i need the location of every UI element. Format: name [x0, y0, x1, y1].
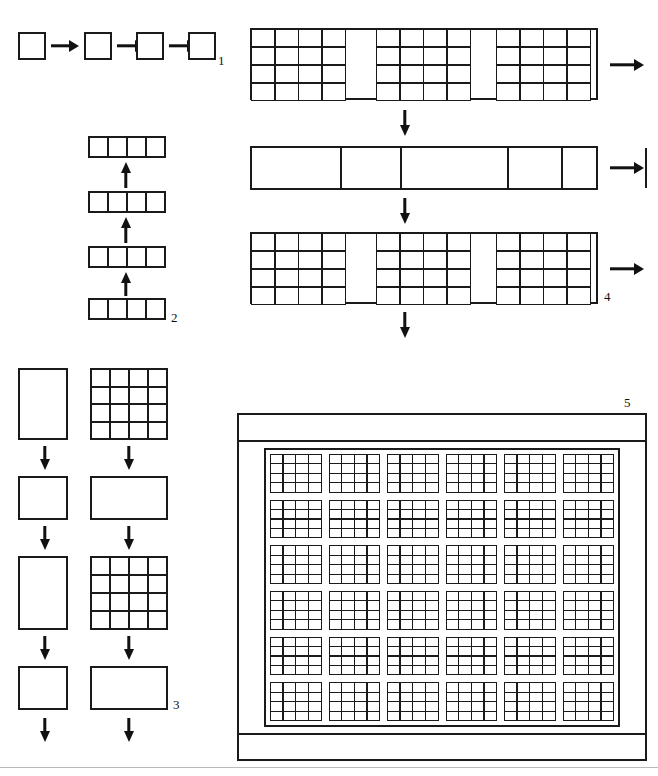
- square-node: [84, 32, 112, 60]
- nested-grid-field: [270, 454, 614, 721]
- panel-5-inner-frame: [264, 448, 620, 727]
- footer-rule: [0, 767, 658, 768]
- arrow-down-icon: [395, 110, 415, 136]
- frame-top-band: [239, 415, 645, 442]
- panel-label-3: 3: [173, 698, 180, 711]
- bar-segment: [252, 148, 342, 188]
- grid-block-4x4: [376, 233, 471, 305]
- grid-block-4x4: [496, 233, 591, 305]
- bar-segment: [402, 148, 509, 188]
- panel-3: 3: [18, 368, 208, 768]
- bar-segment: [509, 148, 563, 188]
- grid-block-4x4: [329, 682, 381, 721]
- grid-block-4x4: [563, 637, 615, 676]
- arrow-up-icon: [116, 272, 136, 296]
- square-node: [136, 32, 164, 60]
- grid-block-4x4: [270, 545, 322, 584]
- grid-block-4x4: [504, 454, 556, 493]
- grid-block-4x4: [329, 591, 381, 630]
- grid-block-4x4: [387, 454, 439, 493]
- banded-grid-bar: [250, 232, 598, 304]
- arrow-down-icon: [35, 446, 55, 470]
- square-node: [18, 666, 68, 710]
- grid-block-4x4: [563, 454, 615, 493]
- grid-block-4x4: [504, 637, 556, 676]
- arrow-right-icon: [51, 39, 79, 53]
- tall-rectangle-node: [18, 556, 68, 630]
- grid-block-4x4: [387, 545, 439, 584]
- arrow-up-icon: [116, 162, 136, 188]
- strip-of-4-cells: [88, 136, 166, 158]
- panel-1: 1: [18, 26, 208, 72]
- panel-4: 4: [250, 28, 650, 338]
- grid-block-4x4: [329, 454, 381, 493]
- panel-2: 2: [88, 136, 208, 316]
- arrow-down-icon: [119, 718, 139, 742]
- frame-bottom-band: [239, 733, 645, 759]
- grid-4x4-node: [90, 368, 168, 440]
- grid-block-4x4: [270, 591, 322, 630]
- square-node: [18, 32, 46, 60]
- grid-block-4x4: [446, 682, 498, 721]
- strip-of-4-cells: [88, 191, 166, 213]
- grid-block-4x4: [504, 682, 556, 721]
- arrow-down-icon: [119, 446, 139, 470]
- panel-label-4: 4: [604, 290, 611, 303]
- arrow-down-icon: [395, 312, 415, 338]
- grid-block-4x4: [504, 500, 556, 539]
- panel-5: [237, 413, 647, 761]
- figure-canvas: 1 2: [0, 0, 658, 776]
- grid-block-4x4: [563, 500, 615, 539]
- wide-rectangle-node: [90, 666, 168, 710]
- grid-block-4x4: [563, 682, 615, 721]
- grid-block-4x4: [270, 682, 322, 721]
- grid-block-4x4: [329, 637, 381, 676]
- grid-block-4x4: [270, 500, 322, 539]
- grid-block-4x4: [563, 545, 615, 584]
- grid-block-4x4: [387, 637, 439, 676]
- bar-segment: [342, 148, 402, 188]
- grid-block-4x4: [504, 545, 556, 584]
- grid-block-4x4: [446, 500, 498, 539]
- grid-block-4x4: [376, 29, 471, 101]
- grid-block-4x4: [387, 591, 439, 630]
- panel-label-5: 5: [624, 396, 631, 409]
- wide-rectangle-node: [90, 476, 168, 520]
- grid-block-4x4: [504, 591, 556, 630]
- strip-of-4-cells: [88, 298, 166, 320]
- panel-5-frame: [237, 413, 647, 761]
- square-node: [18, 476, 68, 520]
- plain-segment-bar: [250, 146, 598, 190]
- grid-block-4x4: [329, 500, 381, 539]
- arrow-down-icon: [35, 718, 55, 742]
- arrow-right-icon: [610, 58, 644, 72]
- grid-block-4x4: [446, 545, 498, 584]
- tall-rectangle-node: [18, 368, 68, 440]
- arrow-right-icon: [610, 262, 644, 276]
- banded-grid-bar: [250, 28, 598, 100]
- grid-block-4x4: [251, 233, 346, 305]
- panel-label-2: 2: [171, 311, 178, 324]
- grid-block-4x4: [496, 29, 591, 101]
- grid-block-4x4: [387, 682, 439, 721]
- arrow-down-icon: [395, 198, 415, 224]
- arrow-up-icon: [116, 217, 136, 243]
- grid-block-4x4: [446, 637, 498, 676]
- arrow-down-icon: [35, 526, 55, 550]
- grid-block-4x4: [563, 591, 615, 630]
- strip-of-4-cells: [88, 246, 166, 268]
- grid-block-4x4: [446, 454, 498, 493]
- arrow-down-icon: [119, 636, 139, 660]
- grid-block-4x4: [270, 637, 322, 676]
- arrow-down-icon: [119, 526, 139, 550]
- square-node: [188, 32, 216, 60]
- grid-block-4x4: [329, 545, 381, 584]
- arrow-down-icon: [35, 636, 55, 660]
- grid-block-4x4: [446, 591, 498, 630]
- grid-block-4x4: [251, 29, 346, 101]
- panel-label-1: 1: [218, 54, 225, 67]
- grid-4x4-node: [90, 556, 168, 630]
- arrow-right-icon: [610, 161, 644, 175]
- grid-block-4x4: [270, 454, 322, 493]
- grid-block-4x4: [387, 500, 439, 539]
